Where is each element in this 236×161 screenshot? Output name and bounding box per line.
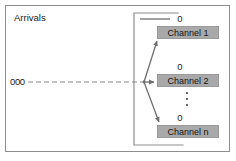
vertical-ellipsis-icon: [185, 92, 189, 106]
queue-label: 000: [10, 77, 25, 87]
ellipsis-dot: [186, 92, 188, 94]
channel-box-n: Channel n: [157, 125, 219, 138]
channel-box-1: Channel 1: [157, 26, 219, 39]
channel-box-2: Channel 2: [157, 74, 219, 87]
queuing-system-figure: Arrivals 000 0 0 0 Channel 1 Channel 2 C…: [0, 0, 236, 161]
departure-label-channel-1: 0: [173, 14, 187, 24]
departure-label-channel-n: 0: [173, 113, 187, 123]
departure-label-channel-2: 0: [173, 62, 187, 72]
arrow-to-channel-n: [144, 82, 159, 122]
ellipsis-dot: [186, 104, 188, 106]
arrow-to-channel-1: [144, 41, 157, 82]
ellipsis-dot: [186, 98, 188, 100]
arrivals-label: Arrivals: [14, 13, 46, 23]
